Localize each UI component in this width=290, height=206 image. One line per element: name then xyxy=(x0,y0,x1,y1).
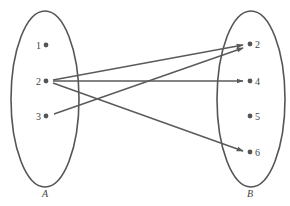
element-B6: 6 xyxy=(248,147,260,158)
arrow-A2-to-B2 xyxy=(53,45,243,80)
set-A: A123 xyxy=(11,11,79,199)
element-B5: 5 xyxy=(248,111,260,122)
set-ellipse-A xyxy=(11,11,79,187)
element-label: 1 xyxy=(36,40,41,51)
element-dot xyxy=(248,79,253,84)
element-label: 2 xyxy=(36,76,41,87)
element-label: 4 xyxy=(255,76,260,87)
set-label-B: B xyxy=(247,188,253,199)
element-dot xyxy=(248,114,253,119)
set-B: B2456 xyxy=(217,11,285,199)
element-dot xyxy=(248,150,253,155)
element-dot xyxy=(248,42,253,47)
element-A1: 1 xyxy=(36,40,48,51)
element-B2: 2 xyxy=(248,39,260,50)
arrow-A2-to-B6 xyxy=(53,83,243,151)
element-label: 6 xyxy=(255,147,260,158)
element-A3: 3 xyxy=(36,111,48,122)
element-label: 2 xyxy=(255,39,260,50)
element-dot xyxy=(44,114,49,119)
element-dot xyxy=(44,79,49,84)
mappings-layer xyxy=(53,45,243,151)
element-label: 3 xyxy=(36,111,41,122)
function-mapping-diagram: A123B2456 xyxy=(0,0,290,206)
sets-layer: A123B2456 xyxy=(11,11,285,199)
element-label: 5 xyxy=(255,111,260,122)
element-B4: 4 xyxy=(248,76,260,87)
set-ellipse-B xyxy=(217,11,285,187)
element-A2: 2 xyxy=(36,76,48,87)
set-label-A: A xyxy=(41,188,49,199)
element-dot xyxy=(44,43,49,48)
